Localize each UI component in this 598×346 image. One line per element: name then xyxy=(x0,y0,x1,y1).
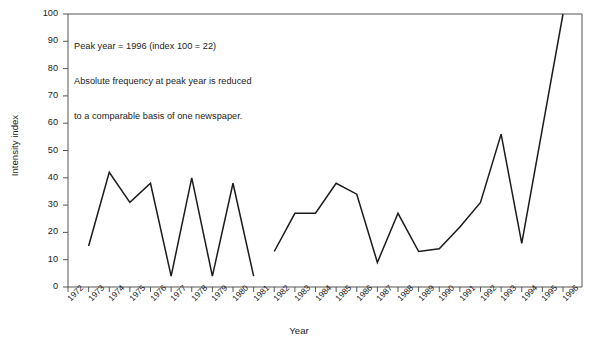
y-axis-tick-40: 40 xyxy=(32,172,58,182)
y-axis-tick-80: 80 xyxy=(32,63,58,73)
annotation-line-2: Absolute frequency at peak year is reduc… xyxy=(74,76,252,88)
y-axis-tick-100: 100 xyxy=(32,8,58,18)
y-axis-tick-0: 0 xyxy=(32,281,58,291)
chart-annotation: Peak year = 1996 (index 100 = 22) Absolu… xyxy=(74,18,252,146)
y-axis-tick-30: 30 xyxy=(32,199,58,209)
annotation-line-1: Peak year = 1996 (index 100 = 22) xyxy=(74,41,252,53)
y-axis-title: Intensity index xyxy=(9,86,20,206)
y-axis-tick-50: 50 xyxy=(32,145,58,155)
chart-container: Peak year = 1996 (index 100 = 22) Absolu… xyxy=(0,0,598,346)
y-axis-tick-70: 70 xyxy=(32,90,58,100)
data-line-segment-2 xyxy=(274,14,563,262)
y-axis-tick-90: 90 xyxy=(32,35,58,45)
annotation-line-3: to a comparable basis of one newspaper. xyxy=(74,111,252,123)
y-axis-tick-20: 20 xyxy=(32,226,58,236)
x-axis-title: Year xyxy=(0,325,598,336)
y-axis-tick-60: 60 xyxy=(32,117,58,127)
y-axis-tick-10: 10 xyxy=(32,254,58,264)
data-line-segment-1 xyxy=(89,172,254,276)
